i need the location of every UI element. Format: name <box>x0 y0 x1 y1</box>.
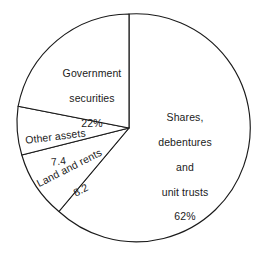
pie-label-shares-line2: debentures <box>158 136 212 148</box>
pie-label-government-securities-line2: securities <box>69 92 114 104</box>
pie-label-shares-line4: unit trusts <box>162 186 209 198</box>
pie-label-shares-line1: Shares, <box>167 111 204 123</box>
pie-label-government-securities-line1: Government <box>63 67 122 79</box>
pie-label-shares-line3: and <box>176 161 194 173</box>
pie-chart: Government securities 22% Shares, debent… <box>0 0 253 256</box>
pie-label-shares-value: 62% <box>142 210 228 222</box>
pie-label-shares-debentures-unit-trusts: Shares, debentures and unit trusts 62% <box>142 99 228 235</box>
